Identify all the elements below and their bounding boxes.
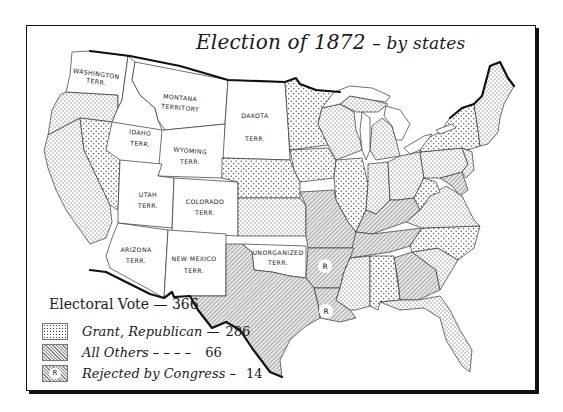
legend-value: 66 [205,345,222,360]
title-sub: – by states [372,33,465,53]
dots-swatch-icon [42,323,68,340]
label-dakota-2: TERR. [244,135,265,142]
terr-dakota [222,80,290,160]
rejected-marker-arkansas: R [318,259,332,273]
label-arizona-2: TERR. [125,257,146,264]
terr-new-mexico [164,230,226,298]
label-new-mexico-2: TERR. [183,267,204,274]
label-unorganized-2: TERR. [267,259,288,266]
label-colorado: COLORADO [186,198,224,205]
label-dakota: DAKOTA [241,112,269,119]
legend-label: Grant, Republican — [82,324,220,339]
state-new-england [474,62,514,146]
label-new-mexico: NEW MEXICO [171,255,216,262]
lake-michigan [360,112,370,160]
rejected-marker-louisiana: R [319,304,333,318]
legend-item-rejected: R Rejected by Congress – 14 [42,364,263,383]
legend-title: Electoral Vote — 366 [49,296,199,312]
label-colorado-2: TERR. [194,209,215,216]
rejected-swatch-icon: R [42,365,68,382]
legend-label: All Others – – – – [82,345,191,360]
legend-item-others: All Others – – – – 66 [42,343,222,362]
state-florida [380,296,472,372]
legend-label: Rejected by Congress – [82,366,236,381]
legend-item-grant: Grant, Republican — 286 [42,322,250,341]
svg-text:R: R [322,262,327,271]
terr-colorado [172,178,238,236]
map-title: Election of 1872 – by states [196,30,466,54]
label-idaho: IDAHO [129,128,152,137]
label-utah: UTAH [139,191,157,198]
title-main: Election of 1872 [196,30,366,54]
svg-text:R: R [323,307,328,316]
label-unorganized: UNORGANIZED [252,249,303,256]
hatch-swatch-icon [42,344,68,361]
label-arizona: ARIZONA [120,246,151,253]
state-kansas [238,198,306,236]
legend-value: 14 [246,366,263,381]
r-badge: R [49,368,61,379]
label-utah-2: TERR. [137,202,158,209]
label-idaho-2: TERR. [129,139,151,148]
legend-value: 286 [226,324,251,339]
label-wyoming-2: TERR. [179,158,200,165]
